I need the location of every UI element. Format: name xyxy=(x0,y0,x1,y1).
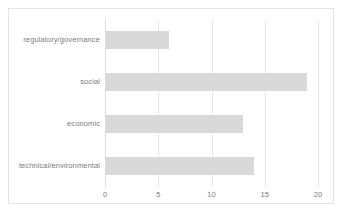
bar-technical-environmental[interactable] xyxy=(105,157,254,175)
category-label: social xyxy=(80,73,100,91)
bar-row: technical/environmental xyxy=(105,145,318,187)
chart-frame: regulatory/governance social economic te… xyxy=(8,8,334,204)
plot-area: regulatory/governance social economic te… xyxy=(105,19,318,187)
x-axis-tick-labels: 0 5 10 15 20 xyxy=(105,189,318,203)
bar-economic[interactable] xyxy=(105,115,243,133)
x-tick-label-0: 0 xyxy=(103,189,107,201)
bar-row: economic xyxy=(105,103,318,145)
gridline-20 xyxy=(318,19,319,187)
bar-regulatory-governance[interactable] xyxy=(105,31,169,49)
x-tick-label-15: 15 xyxy=(261,189,269,201)
category-label: technical/environmental xyxy=(19,157,100,175)
bar-social[interactable] xyxy=(105,73,307,91)
category-label: regulatory/governance xyxy=(23,31,100,49)
x-tick-label-20: 20 xyxy=(314,189,322,201)
x-tick-label-10: 10 xyxy=(207,189,215,201)
bar-row: social xyxy=(105,61,318,103)
category-label: economic xyxy=(67,115,100,133)
x-tick-label-5: 5 xyxy=(156,189,160,201)
bar-row: regulatory/governance xyxy=(105,19,318,61)
